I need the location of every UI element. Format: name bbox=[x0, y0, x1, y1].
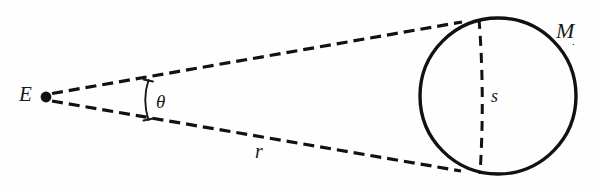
angle-arc-tick-bottom bbox=[144, 119, 154, 121]
size-label-s: s bbox=[491, 87, 498, 105]
body-label-M-subscript: . bbox=[572, 35, 575, 47]
body-label-M: M. bbox=[556, 20, 577, 45]
distance-label-r: r bbox=[255, 141, 263, 161]
diagram-canvas bbox=[0, 0, 598, 188]
observer-vertex-dot bbox=[41, 92, 52, 103]
angular-size-diagram: E θ r s M. bbox=[0, 0, 598, 188]
size-chord-dashed bbox=[479, 19, 482, 174]
angle-label-theta: θ bbox=[156, 92, 165, 111]
angle-arc-tick-top bbox=[144, 80, 154, 82]
observer-label-E: E bbox=[19, 84, 32, 105]
angle-arc bbox=[145, 80, 148, 120]
upper-sight-line-dashed bbox=[52, 22, 462, 94]
